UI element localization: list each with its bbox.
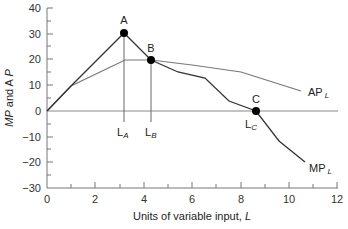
label-lb: LB: [145, 126, 157, 140]
svg-text:10: 10: [29, 79, 41, 91]
svg-text:8: 8: [238, 193, 244, 205]
y-tick-labels: 40 30 20 10 0 −10 −20 −30: [22, 2, 41, 194]
point-b: [147, 56, 155, 64]
x-axis-title: Units of variable input, L: [133, 210, 251, 222]
svg-text:20: 20: [29, 53, 41, 65]
svg-text:−10: −10: [22, 131, 41, 143]
svg-text:12: 12: [331, 193, 343, 205]
svg-text:30: 30: [29, 28, 41, 40]
label-c: C: [252, 93, 260, 105]
svg-text:−30: −30: [22, 182, 41, 194]
ap-label: APL: [308, 86, 329, 100]
svg-text:−20: −20: [22, 156, 41, 168]
y-axis-title: MP and A P: [3, 69, 15, 127]
mp-curve: [47, 33, 305, 162]
point-c: [252, 107, 260, 115]
y-ticks: [47, 8, 53, 175]
label-lc: LC: [245, 118, 257, 132]
label-a: A: [120, 14, 128, 26]
x-tick-labels: 0 2 4 6 8 10 12: [44, 193, 343, 205]
chart: 40 30 20 10 0 −10 −20 −30 0 2 4 6 8 10 1…: [0, 0, 348, 229]
svg-text:10: 10: [283, 193, 295, 205]
x-ticks: [71, 182, 337, 188]
svg-text:0: 0: [35, 105, 41, 117]
svg-text:6: 6: [189, 193, 195, 205]
point-a: [120, 29, 128, 37]
svg-text:4: 4: [141, 193, 147, 205]
label-la: LA: [117, 126, 128, 140]
ap-curve: [47, 60, 301, 111]
mp-label: MPL: [309, 162, 332, 176]
label-b: B: [147, 42, 154, 54]
svg-text:40: 40: [29, 2, 41, 14]
svg-text:2: 2: [92, 193, 98, 205]
svg-text:0: 0: [44, 193, 50, 205]
